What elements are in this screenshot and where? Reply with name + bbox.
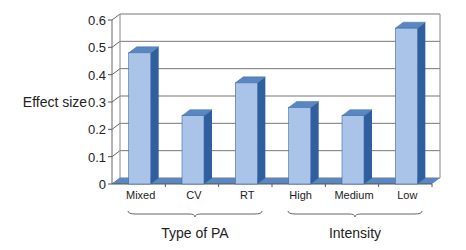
x-tick-label: Mixed	[126, 189, 155, 201]
y-tick-label: 0.5	[88, 40, 106, 55]
bar-side	[257, 77, 265, 184]
chart-floor	[112, 178, 440, 184]
x-tick-label: CV	[186, 189, 202, 201]
grid-diagonal	[112, 96, 120, 102]
y-axis-label: Effect size	[23, 94, 88, 110]
group-brace	[128, 211, 262, 217]
grid-diagonal	[112, 123, 120, 129]
effect-size-bar-chart: 00.10.20.30.40.50.6Effect sizeMixedCVRTH…	[0, 0, 466, 250]
group-brace	[288, 211, 422, 217]
x-tick-label: High	[289, 189, 312, 201]
y-tick-label: 0.1	[88, 150, 106, 165]
bar-cv	[182, 116, 204, 184]
y-tick-label: 0.3	[88, 95, 106, 110]
bar-rt	[235, 83, 257, 184]
y-tick-label: 0.2	[88, 122, 106, 137]
y-tick-label: 0.6	[88, 13, 106, 28]
x-tick-label: Low	[397, 189, 417, 201]
bar-side	[151, 47, 159, 184]
group-label: Intensity	[329, 225, 381, 241]
bar-side	[204, 110, 212, 184]
y-tick-label: 0.4	[88, 68, 106, 83]
grid-diagonal	[112, 151, 120, 157]
bar-mixed	[129, 53, 151, 184]
bar-high	[289, 107, 311, 184]
bar-side	[311, 101, 319, 184]
bar-low	[395, 28, 417, 184]
x-tick-label: Medium	[334, 189, 373, 201]
y-tick-label: 0	[99, 177, 106, 192]
grid-diagonal	[112, 14, 120, 20]
grid-diagonal	[112, 41, 120, 47]
group-label: Type of PA	[161, 225, 229, 241]
grid-diagonal	[112, 69, 120, 75]
bar-side	[417, 22, 425, 184]
x-tick-label: RT	[240, 189, 255, 201]
bar-side	[364, 110, 372, 184]
bar-medium	[342, 116, 364, 184]
